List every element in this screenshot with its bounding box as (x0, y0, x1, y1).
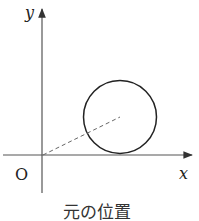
diagram: y x O 元の位置 (0, 0, 199, 221)
x-axis-label: x (179, 164, 188, 183)
dashed-radius-line (43, 117, 120, 155)
y-axis-label: y (24, 3, 35, 22)
caption: 元の位置 (63, 202, 131, 221)
origin-label: O (15, 165, 28, 184)
